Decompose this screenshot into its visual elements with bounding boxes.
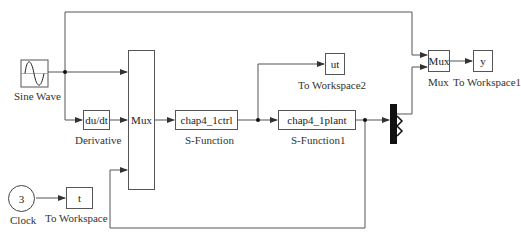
derivative-block[interactable]: du/dt (83, 110, 110, 130)
mux-right-label: Mux (428, 76, 449, 88)
to-workspace1-label: To Workspace1 (453, 76, 521, 88)
clock-block[interactable]: 3 (8, 185, 35, 212)
simulink-canvas: Sine Wave du/dt Derivative Mux chap4_1ct… (0, 0, 521, 239)
to-workspace1-block[interactable]: y (473, 50, 493, 72)
mux-main-block[interactable]: Mux (128, 50, 155, 190)
demux-bar (390, 104, 397, 144)
s-function1-block[interactable]: chap4_1plant (278, 110, 356, 130)
derivative-label: Derivative (75, 134, 121, 146)
clock-label: Clock (10, 214, 36, 226)
to-workspace2-block[interactable]: ut (325, 53, 345, 75)
to-workspace2-label: To Workspace2 (298, 79, 366, 91)
to-workspace-block[interactable]: t (66, 187, 93, 209)
s-function1-label: S-Function1 (291, 134, 345, 146)
sine-wave-label: Sine Wave (14, 90, 61, 102)
s-function-label: S-Function (185, 134, 234, 146)
s-function-block[interactable]: chap4_1ctrl (175, 110, 238, 130)
sine-wave-icon (21, 60, 48, 87)
to-workspace-label: To Workspace (45, 212, 108, 224)
mux-right-block[interactable]: Mux (428, 50, 450, 72)
